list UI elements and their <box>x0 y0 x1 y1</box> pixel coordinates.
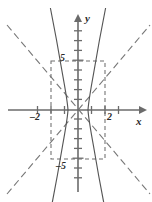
y-tick-label-neg5: –5 <box>56 161 66 171</box>
y-tick-label-5: 5 <box>60 53 65 63</box>
hyperbola-figure: –2 2 5 –5 x y <box>0 0 152 202</box>
y-axis-label: y <box>85 13 90 24</box>
x-tick-label-neg2: –2 <box>30 112 40 122</box>
x-tick-label-2: 2 <box>107 112 112 122</box>
y-axis-arrowhead <box>74 14 82 22</box>
x-axis-label: x <box>136 116 142 127</box>
hyperbola-left-branch <box>50 8 68 202</box>
hyperbola-right-branch <box>88 8 106 202</box>
x-axis-arrowhead <box>139 106 147 114</box>
graph-canvas <box>0 0 152 202</box>
